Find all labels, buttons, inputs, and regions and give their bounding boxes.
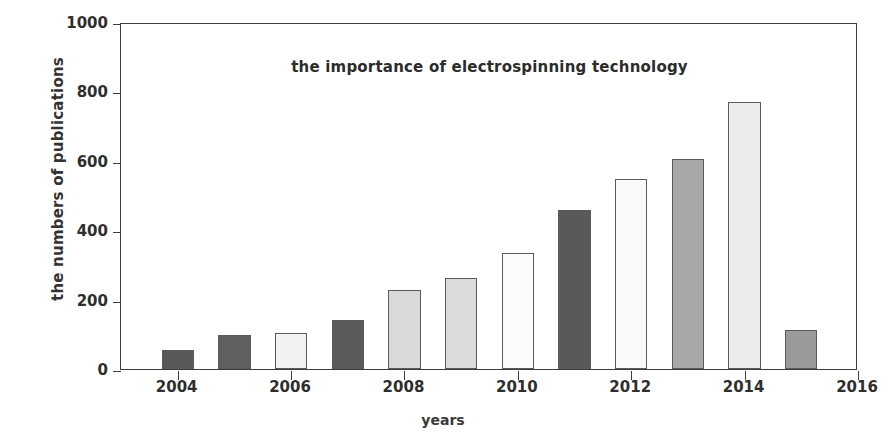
y-axis-label: the numbers of publications (49, 29, 67, 329)
bar-2006 (275, 333, 307, 369)
y-tick-label: 800 (24, 83, 108, 101)
x-tick-label: 2012 (595, 378, 665, 396)
bar-2004 (162, 350, 194, 369)
y-tick-mark (113, 93, 121, 94)
bar-2009 (445, 278, 477, 369)
bar-chart-figure: the numbers of publications years the im… (0, 0, 886, 441)
x-tick-label: 2008 (368, 378, 438, 396)
bar-2012 (615, 179, 647, 369)
plot-area: the importance of electrospinning techno… (120, 23, 857, 370)
chart-title: the importance of electrospinning techno… (121, 58, 858, 76)
y-tick-label: 400 (24, 222, 108, 240)
x-tick-label: 2010 (482, 378, 552, 396)
x-tick-label: 2014 (709, 378, 779, 396)
y-tick-label: 600 (24, 153, 108, 171)
bar-2013 (672, 159, 704, 369)
y-tick-mark (113, 232, 121, 233)
bar-2011 (558, 210, 590, 369)
x-axis-label: years (0, 412, 886, 428)
x-tick-label: 2004 (142, 378, 212, 396)
bar-2010 (502, 253, 534, 369)
y-tick-mark (113, 302, 121, 303)
bar-2007 (332, 320, 364, 369)
bar-2008 (388, 290, 420, 369)
x-tick-label: 2016 (822, 378, 886, 396)
y-tick-label: 200 (24, 292, 108, 310)
y-tick-mark (113, 24, 121, 25)
bar-2005 (218, 335, 250, 369)
y-tick-label: 0 (24, 361, 108, 379)
y-tick-mark (113, 163, 121, 164)
bar-2015 (785, 330, 817, 369)
y-tick-mark (113, 371, 121, 372)
y-tick-label: 1000 (24, 14, 108, 32)
x-tick-label: 2006 (255, 378, 325, 396)
bar-2014 (728, 102, 760, 369)
